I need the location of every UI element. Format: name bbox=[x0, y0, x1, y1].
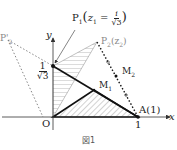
point-m1 bbox=[93, 89, 95, 91]
origin-label: O bbox=[42, 119, 50, 129]
label-a: A(1) bbox=[139, 105, 160, 115]
label-p1: P1(z1 = i√3) bbox=[72, 10, 127, 27]
label-m2: M2 bbox=[122, 67, 135, 78]
label-p2prime: P'2 bbox=[0, 34, 12, 45]
label-p2: P2(z2) bbox=[101, 37, 127, 48]
complex-plane-figure: P1(z1 = i√3) P2(z2) P'2 M1 M2 A(1) x y O… bbox=[0, 0, 177, 150]
point-m2 bbox=[115, 75, 118, 78]
figure-caption: 図1 bbox=[0, 134, 177, 145]
x-axis-label: x bbox=[169, 112, 175, 122]
label-m1: M1 bbox=[99, 81, 112, 92]
y-tick-1-over-root3: 1√3 bbox=[37, 62, 48, 81]
point-p1 bbox=[51, 64, 55, 68]
x-tick-1: 1 bbox=[135, 120, 141, 130]
y-axis-label: y bbox=[46, 30, 52, 40]
